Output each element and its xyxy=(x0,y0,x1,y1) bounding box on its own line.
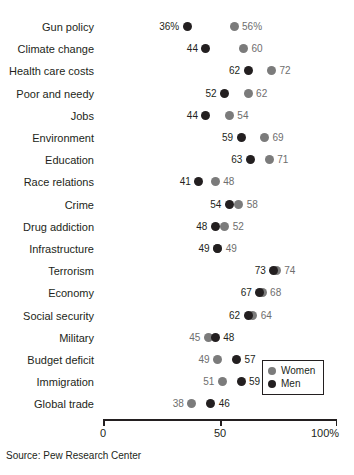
chart-row: Military4548 xyxy=(0,329,354,348)
row-plot: 6768 xyxy=(103,284,337,303)
row-plot: 6371 xyxy=(103,151,337,170)
chart-row: Infrastructure4949 xyxy=(0,240,354,259)
legend-item-women[interactable]: Women xyxy=(268,364,318,377)
dot-men xyxy=(201,44,210,53)
dot-men xyxy=(211,333,220,342)
row-label-race-relations: Race relations xyxy=(0,175,94,190)
row-plot: 4852 xyxy=(103,218,337,237)
row-label-climate-change: Climate change xyxy=(0,42,94,57)
row-label-crime: Crime xyxy=(0,198,94,213)
chart-row: Health care costs6272 xyxy=(0,62,354,81)
dot-women xyxy=(187,399,196,408)
row-plot: 4460 xyxy=(103,40,337,59)
legend-label: Women xyxy=(281,365,315,377)
row-label-global-trade: Global trade xyxy=(0,397,94,412)
row-plot: 4949 xyxy=(103,240,337,259)
dot-men xyxy=(194,177,203,186)
dot-women xyxy=(220,222,229,231)
row-plot: 5262 xyxy=(103,85,337,104)
row-label-environment: Environment xyxy=(0,131,94,146)
dot-men xyxy=(232,355,241,364)
row-plot: 7374 xyxy=(103,262,337,281)
legend-item-men[interactable]: Men xyxy=(268,377,318,390)
dot-women xyxy=(213,355,222,364)
chart-row: Terrorism7374 xyxy=(0,262,354,281)
row-label-gun-policy: Gun policy xyxy=(0,20,94,35)
chart-row: Jobs4454 xyxy=(0,107,354,126)
row-plot: 4548 xyxy=(103,329,337,348)
chart-legend: WomenMen xyxy=(262,360,324,395)
row-plot: 5458 xyxy=(103,196,337,215)
row-label-poor-and-needy: Poor and needy xyxy=(0,87,94,102)
dot-women xyxy=(218,377,227,386)
dot-men xyxy=(183,22,192,31)
row-label-military: Military xyxy=(0,331,94,346)
row-label-terrorism: Terrorism xyxy=(0,264,94,279)
chart-row: Poor and needy5262 xyxy=(0,85,354,104)
dot-women xyxy=(265,155,274,164)
dot-men xyxy=(201,111,210,120)
legend-dot-icon xyxy=(268,380,276,388)
chart-row: Crime5458 xyxy=(0,196,354,215)
row-plot: 3846 xyxy=(103,395,337,414)
chart-row: Drug addiction4852 xyxy=(0,218,354,237)
axis-tick xyxy=(103,419,105,426)
row-label-drug-addiction: Drug addiction xyxy=(0,220,94,235)
chart-row: Climate change4460 xyxy=(0,40,354,59)
dot-men xyxy=(246,155,255,164)
dot-men xyxy=(211,222,220,231)
row-label-social-security: Social security xyxy=(0,309,94,324)
row-plot: 36%56% xyxy=(103,18,337,37)
dot-men xyxy=(225,200,234,209)
dot-men xyxy=(244,66,253,75)
row-label-economy: Economy xyxy=(0,286,94,301)
row-plot: 5969 xyxy=(103,129,337,148)
row-label-immigration: Immigration xyxy=(0,375,94,390)
axis-tick xyxy=(336,419,338,426)
chart-row: Environment5969 xyxy=(0,129,354,148)
chart-row: Economy6768 xyxy=(0,284,354,303)
row-label-budget-deficit: Budget deficit xyxy=(0,353,94,368)
dot-men xyxy=(220,89,229,98)
dot-women xyxy=(234,200,243,209)
row-plot: 6272 xyxy=(103,62,337,81)
chart-row: Gun policy36%56% xyxy=(0,18,354,37)
dot-men xyxy=(244,311,253,320)
dot-men xyxy=(237,133,246,142)
row-label-jobs: Jobs xyxy=(0,109,94,124)
row-plot: 6264 xyxy=(103,307,337,326)
chart-row: Social security6264 xyxy=(0,307,354,326)
axis-tick-label: 0 xyxy=(100,426,106,440)
chart-row: Global trade3846 xyxy=(0,395,354,414)
axis-tick-label: 100% xyxy=(311,426,339,440)
row-label-health-care-costs: Health care costs xyxy=(0,64,94,79)
axis-tick-label: 50 xyxy=(214,426,226,440)
row-label-education: Education xyxy=(0,153,94,168)
dot-women xyxy=(225,111,234,120)
chart-row: Race relations4148 xyxy=(0,173,354,192)
chart-row: Education6371 xyxy=(0,151,354,170)
legend-label: Men xyxy=(281,378,300,390)
dot-women xyxy=(244,89,253,98)
dot-men xyxy=(237,377,246,386)
dot-women xyxy=(230,22,239,31)
row-label-infrastructure: Infrastructure xyxy=(0,242,94,257)
source-note: Source: Pew Research Center xyxy=(6,449,141,462)
row-plot: 4148 xyxy=(103,173,337,192)
axis-tick xyxy=(220,419,222,426)
dot-women xyxy=(260,133,269,142)
row-plot: 4454 xyxy=(103,107,337,126)
dot-plot-chart: Gun policy36%56%Climate change4460Health… xyxy=(0,0,354,475)
legend-dot-icon xyxy=(268,367,276,375)
